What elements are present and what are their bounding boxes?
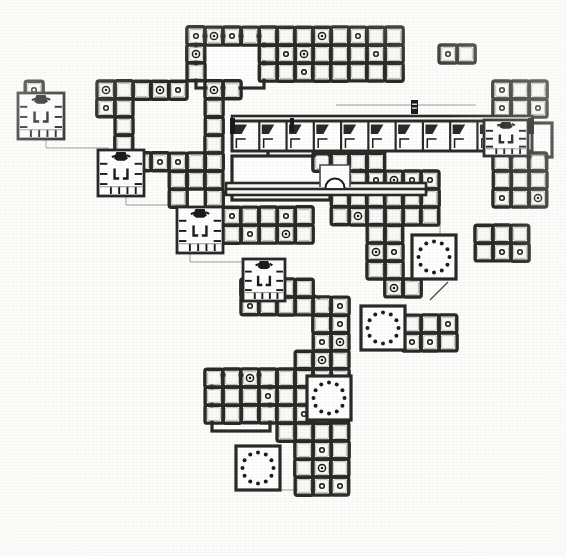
- bay-block: [367, 225, 403, 243]
- bay-interior: [388, 210, 401, 223]
- bay-interior: [442, 336, 455, 349]
- bay-interior: [496, 246, 509, 259]
- bay-interior: [154, 156, 167, 169]
- bay-interior: [280, 210, 293, 223]
- column-marker-core: [375, 251, 378, 254]
- floor-plan-drawing: Archaeological ground plan of a multi-co…: [0, 0, 566, 556]
- bay-interior: [172, 174, 185, 187]
- bay-interior: [226, 408, 239, 421]
- column-marker-core: [249, 377, 252, 380]
- bay-interior: [334, 48, 347, 61]
- bay-interior: [226, 30, 239, 43]
- bay-interior: [388, 246, 401, 259]
- bay-interior: [280, 390, 293, 403]
- colonnade-column-dot: [419, 263, 423, 267]
- bay-interior: [442, 48, 455, 61]
- colonnade-column-dot: [445, 263, 449, 267]
- bay-interior: [514, 228, 527, 241]
- bay-block: [367, 261, 403, 279]
- colonnade-column-dot: [424, 242, 428, 246]
- bay-interior: [208, 156, 221, 169]
- bay-interior: [532, 156, 545, 169]
- bay-interior: [208, 102, 221, 115]
- colonnade-column-dot: [340, 404, 344, 408]
- bay-interior: [208, 372, 221, 385]
- bay-interior: [496, 156, 509, 169]
- colonnade-column-dot: [340, 388, 344, 392]
- pier-marker: [411, 100, 418, 114]
- colonnade-column-dot: [381, 342, 385, 346]
- bay-interior: [514, 84, 527, 97]
- bay-interior: [514, 246, 527, 259]
- bay-interior: [280, 426, 293, 439]
- bay-interior: [208, 390, 221, 403]
- colonnade-column-dot: [248, 479, 252, 483]
- bay-block: [403, 333, 457, 351]
- colonnade-column-dot: [397, 326, 401, 330]
- bay-interior: [226, 372, 239, 385]
- bay-interior: [262, 228, 275, 241]
- bay-interior: [388, 66, 401, 79]
- bay-interior: [262, 372, 275, 385]
- bay-block: [331, 27, 403, 81]
- bay-interior: [316, 66, 329, 79]
- bay-interior: [208, 192, 221, 205]
- bay-interior: [298, 300, 311, 313]
- shrine-module: [98, 150, 144, 196]
- column-marker-core: [537, 197, 540, 200]
- bay-interior: [172, 192, 185, 205]
- colonnade-column-dot: [440, 268, 444, 272]
- colonnade-column-dot: [424, 268, 428, 272]
- column-marker-core: [213, 89, 216, 92]
- colonnade-column-dot: [432, 271, 436, 275]
- bay-interior: [262, 66, 275, 79]
- bay-interior: [406, 318, 419, 331]
- colonnade-column-dot: [335, 409, 339, 413]
- circular-colonnade-court: [412, 235, 456, 279]
- colonnade-column-dot: [419, 247, 423, 251]
- column-marker-core: [159, 89, 162, 92]
- column-marker-core: [195, 53, 198, 56]
- bay-interior: [352, 66, 365, 79]
- colonnade-column-dot: [389, 313, 393, 317]
- bay-interior: [370, 30, 383, 43]
- bay-interior: [370, 210, 383, 223]
- colonnade-column-dot: [417, 255, 421, 259]
- bay-interior: [496, 192, 509, 205]
- shrine-module: [243, 259, 285, 301]
- shrine-module: [484, 120, 528, 156]
- bay-block: [475, 225, 529, 243]
- colonnade-column-dot: [314, 404, 318, 408]
- bay-interior: [298, 426, 311, 439]
- bay-interior: [514, 174, 527, 187]
- bay-block: [295, 441, 349, 459]
- column-marker-core: [321, 35, 324, 38]
- bay-interior: [226, 390, 239, 403]
- colonnade-column-dot: [373, 313, 377, 317]
- shrine-feature-wing-right: [512, 124, 515, 125]
- colonnade-column-dot: [394, 334, 398, 338]
- bay-interior: [298, 30, 311, 43]
- apse-semicircle: [326, 179, 345, 189]
- bay-interior: [316, 480, 329, 493]
- bay-interior: [262, 408, 275, 421]
- bay-interior: [262, 48, 275, 61]
- bay-interior: [244, 210, 257, 223]
- bay-block: [205, 81, 241, 99]
- bay-interior: [460, 48, 473, 61]
- bay-interior: [334, 66, 347, 79]
- bay-interior: [496, 102, 509, 115]
- bay-interior: [280, 372, 293, 385]
- bay-interior: [514, 156, 527, 169]
- bay-interior: [316, 48, 329, 61]
- colonnade-column-dot: [272, 466, 276, 470]
- colonnade-column-dot: [373, 339, 377, 343]
- bay-interior: [136, 84, 149, 97]
- bay-interior: [190, 156, 203, 169]
- bay-interior: [388, 228, 401, 241]
- colonnade-column-dot: [256, 451, 260, 455]
- bay-block: [277, 423, 349, 442]
- colonnade-column-dot: [243, 458, 247, 462]
- column-marker-core: [321, 359, 324, 362]
- column-marker-core: [393, 179, 396, 182]
